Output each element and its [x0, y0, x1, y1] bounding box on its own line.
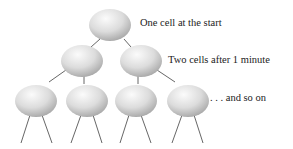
cell-level2-left [61, 45, 103, 77]
cell-level3-2 [66, 85, 108, 117]
label-level3: . . . and so on [210, 92, 266, 103]
label-level2: Two cells after 1 minute [168, 54, 270, 65]
label-level1: One cell at the start [140, 17, 222, 28]
cell-level2-right [120, 45, 162, 77]
cell-level3-4 [167, 85, 209, 117]
cell-level3-1 [15, 85, 57, 117]
cell-level3-3 [115, 85, 157, 117]
cell-level1 [89, 9, 131, 41]
